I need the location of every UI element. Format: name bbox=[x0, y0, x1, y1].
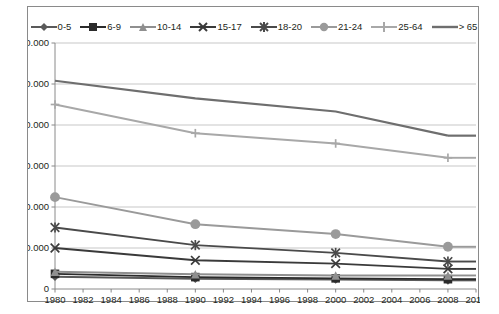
y-axis-tick-label: 50.000 bbox=[28, 78, 49, 89]
x-axis-tick-label: 1994 bbox=[241, 294, 262, 303]
x-axis-tick-label: 1980 bbox=[44, 294, 65, 303]
chart-container: 0-5 6-9 10-14 bbox=[27, 6, 479, 302]
y-axis-tick-label: 0 bbox=[44, 283, 49, 294]
x-axis-tick-label: 2004 bbox=[381, 294, 402, 303]
chart-plot: 010.00020.00030.00040.00050.00060.000198… bbox=[28, 7, 480, 303]
x-axis-tick-label: 2010 bbox=[465, 294, 480, 303]
x-axis-tick-label: 2006 bbox=[409, 294, 430, 303]
y-axis-tick-label: 40.000 bbox=[28, 119, 49, 130]
y-axis-tick-label: 10.000 bbox=[28, 242, 49, 253]
x-axis-tick-label: 2008 bbox=[437, 294, 458, 303]
x-axis-tick-label: 1992 bbox=[213, 294, 234, 303]
y-axis-tick-label: 20.000 bbox=[28, 201, 49, 212]
x-axis-tick-label: 1984 bbox=[101, 294, 122, 303]
x-axis-tick-label: 2002 bbox=[353, 294, 374, 303]
x-axis-tick-label: 2000 bbox=[325, 294, 346, 303]
y-axis-tick-label: 30.000 bbox=[28, 160, 49, 171]
series-line-25-64 bbox=[51, 100, 476, 162]
series-line-21-24 bbox=[50, 192, 476, 251]
x-axis-tick-label: 1990 bbox=[185, 294, 206, 303]
x-axis-tick-label: 1986 bbox=[129, 294, 150, 303]
x-axis-tick-label: 1996 bbox=[269, 294, 290, 303]
series-line-6-9 bbox=[51, 270, 476, 284]
x-axis-tick-label: 1998 bbox=[297, 294, 318, 303]
series-line-65 bbox=[55, 81, 476, 136]
x-axis-tick-label: 1982 bbox=[72, 294, 93, 303]
x-axis-tick-label: 1988 bbox=[157, 294, 178, 303]
y-axis-tick-label: 60.000 bbox=[28, 37, 49, 48]
